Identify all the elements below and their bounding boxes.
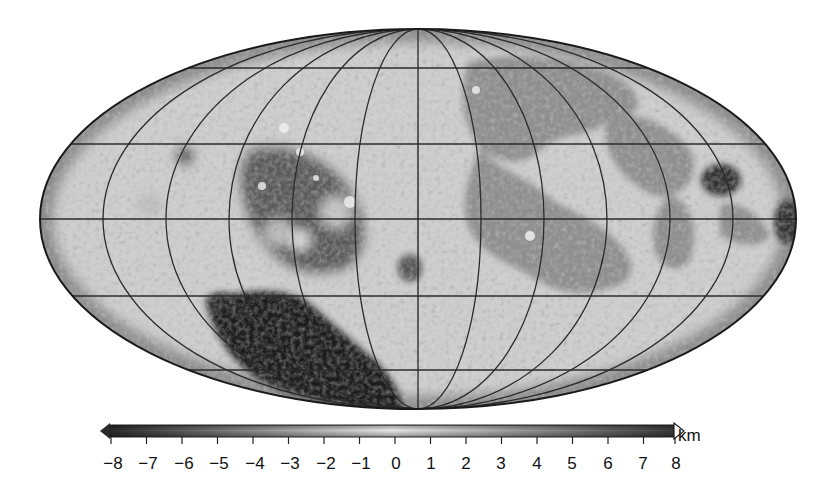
- colorbar-tick-label: 6: [603, 454, 612, 474]
- elevation-colorbar: km −8 −7 −6 −5 −4 −3 −2 −1 0 1 2 3 4 5 6…: [100, 420, 740, 490]
- colorbar-left-arrow-icon: [100, 423, 110, 439]
- colorbar-tick-label: 7: [638, 454, 647, 474]
- colorbar-gradient: [100, 420, 740, 454]
- colorbar-tick-label: 2: [461, 454, 470, 474]
- colorbar-tick-label: 5: [567, 454, 576, 474]
- terrain-layer: [0, 0, 832, 420]
- colorbar-tick-label: 1: [426, 454, 435, 474]
- colorbar-tick-label: −4: [245, 454, 264, 474]
- lunar-topography-figure: km −8 −7 −6 −5 −4 −3 −2 −1 0 1 2 3 4 5 6…: [0, 0, 832, 498]
- colorbar-tick-label: 3: [496, 454, 505, 474]
- colorbar-ticks: [111, 437, 675, 444]
- colorbar-tick-label: −2: [316, 454, 335, 474]
- colorbar-tick-label: −3: [280, 454, 299, 474]
- colorbar-tick-label: −6: [174, 454, 193, 474]
- mollweide-map: [0, 0, 832, 420]
- colorbar-tick-label: 4: [532, 454, 541, 474]
- colorbar-tick-label: 0: [391, 454, 400, 474]
- colorbar-tick-label: −7: [138, 454, 157, 474]
- colorbar-tick-label: −8: [103, 454, 122, 474]
- colorbar-tick-label: −5: [209, 454, 228, 474]
- colorbar-unit: km: [678, 426, 701, 446]
- colorbar-tick-label: 8: [671, 454, 680, 474]
- colorbar-tick-label: −1: [351, 454, 370, 474]
